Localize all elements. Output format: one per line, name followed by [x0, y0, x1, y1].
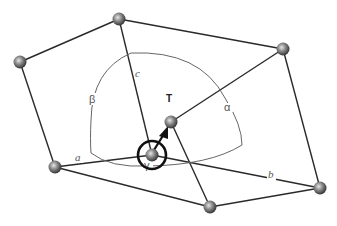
atoms — [14, 13, 327, 214]
label-a: a — [75, 151, 81, 163]
edge-left — [20, 62, 55, 167]
edge-right — [283, 49, 320, 188]
label-alpha: α — [224, 101, 231, 113]
t-vector-arrow — [154, 126, 168, 150]
atom-origin — [146, 149, 159, 162]
edge-bottom-left — [55, 167, 210, 207]
edge-bottom-right — [210, 188, 320, 207]
label-b: b — [268, 168, 274, 180]
arc-alpha — [131, 53, 242, 145]
atom-top-right — [277, 43, 290, 56]
atom-far-right — [314, 182, 327, 195]
axis-c — [119, 19, 152, 155]
arrow-head-icon — [159, 126, 168, 139]
label-beta: β — [89, 93, 95, 105]
atom-far-left — [14, 56, 27, 69]
atom-bottom — [204, 201, 217, 214]
edge-top-left — [20, 19, 119, 62]
label-c: c — [135, 67, 140, 79]
unit-cell-diagram: c a b β α γ T — [0, 0, 337, 226]
axis-b — [152, 155, 320, 188]
angle-arcs — [91, 53, 243, 166]
label-t-vector: T — [166, 93, 172, 104]
edge-top — [119, 19, 283, 49]
atom-top-left — [113, 13, 126, 26]
atom-lower-left — [49, 161, 62, 174]
atom-t — [165, 116, 178, 129]
